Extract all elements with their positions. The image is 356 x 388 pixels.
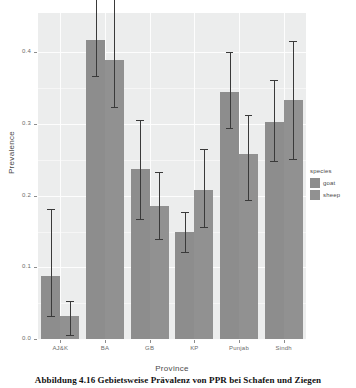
error-bar-cap-lower — [111, 107, 119, 108]
error-bar-line — [274, 80, 275, 162]
legend-label-goat: goat — [323, 180, 335, 186]
error-bar-cap-upper — [66, 301, 74, 302]
error-bar-cap-upper — [245, 115, 253, 116]
y-tick-mark — [34, 339, 37, 340]
error-bar-cap-lower — [289, 159, 297, 160]
x-tick-label-ba: BA — [83, 345, 127, 351]
error-bar-cap-upper — [226, 52, 234, 53]
y-tick-mark — [34, 52, 37, 53]
x-tick-mark — [284, 340, 285, 343]
error-bar-line — [51, 209, 52, 316]
error-bar-line — [70, 301, 71, 335]
error-bar-cap-upper — [289, 41, 297, 42]
error-bar-cap-lower — [136, 219, 144, 220]
x-tick-mark — [150, 340, 151, 343]
error-bar-line — [114, 0, 115, 107]
x-tick-label-sindh: Sindh — [262, 345, 306, 351]
legend-swatch-sheep — [310, 190, 320, 200]
error-bar-line — [204, 149, 205, 226]
error-bar-cap-lower — [155, 239, 163, 240]
error-bar-cap-upper — [200, 149, 208, 150]
error-bar-cap-lower — [92, 76, 100, 77]
error-bar-cap-upper — [181, 212, 189, 213]
error-bar-cap-upper — [270, 80, 278, 81]
x-tick-label-kp: KP — [172, 345, 216, 351]
error-bar-cap-lower — [66, 335, 74, 336]
error-bar-cap-lower — [245, 200, 253, 201]
bar-ba-goat — [86, 40, 105, 339]
y-axis-title: Prevalence — [7, 118, 16, 188]
error-bar-cap-lower — [226, 128, 234, 129]
error-bar-cap-upper — [155, 172, 163, 173]
gridline-major — [38, 52, 306, 53]
error-bar-cap-lower — [47, 316, 55, 317]
gridline-minor — [38, 88, 306, 89]
legend-swatch-goat — [310, 178, 320, 188]
x-tick-label-ajk: AJ&K — [38, 345, 82, 351]
y-tick-label: 0.1 — [11, 263, 31, 269]
figure-container: 0.00.10.20.30.4 Prevalence AJ&KBAGBKPPun… — [0, 0, 356, 388]
legend-item-sheep[interactable]: sheep — [310, 189, 356, 200]
y-tick-label: 0.2 — [11, 192, 31, 198]
error-bar-line — [140, 120, 141, 218]
error-bar-cap-lower — [270, 161, 278, 162]
error-bar-cap-lower — [181, 252, 189, 253]
error-bar-cap-upper — [47, 209, 55, 210]
legend: species goatsheep — [310, 168, 356, 201]
error-bar-line — [159, 172, 160, 239]
x-tick-label-punjab: Punjab — [217, 345, 261, 351]
x-axis-title: Province — [38, 364, 306, 373]
y-tick-label: 0.0 — [11, 335, 31, 341]
gridline-vertical — [60, 13, 61, 339]
error-bar-line — [230, 52, 231, 128]
x-tick-mark — [60, 340, 61, 343]
plot-panel — [38, 13, 306, 339]
x-tick-mark — [239, 340, 240, 343]
y-tick-mark — [34, 196, 37, 197]
error-bar-cap-upper — [136, 120, 144, 121]
x-tick-mark — [105, 340, 106, 343]
legend-label-sheep: sheep — [323, 192, 340, 198]
legend-entries: goatsheep — [310, 177, 356, 200]
x-tick-mark — [194, 340, 195, 343]
error-bar-cap-lower — [200, 227, 208, 228]
error-bar-line — [293, 41, 294, 159]
gridline-major — [38, 339, 306, 340]
legend-item-goat[interactable]: goat — [310, 177, 356, 188]
figure-caption: Abbildung 4.16 Gebietsweise Prävalenz vo… — [0, 375, 356, 385]
error-bar-line — [96, 0, 97, 76]
y-tick-mark — [34, 267, 37, 268]
error-bar-line — [248, 115, 249, 200]
legend-title: species — [310, 168, 356, 174]
x-tick-label-gb: GB — [128, 345, 172, 351]
error-bar-line — [185, 212, 186, 251]
y-tick-label: 0.4 — [11, 48, 31, 54]
y-tick-mark — [34, 124, 37, 125]
